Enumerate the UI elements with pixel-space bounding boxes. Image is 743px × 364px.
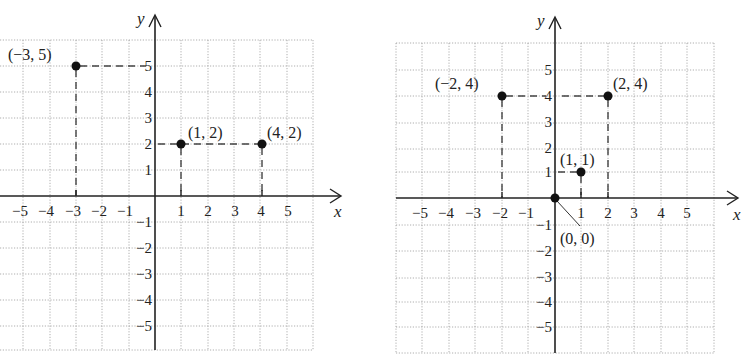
left-graph: x y −5 −4 −3 −2 −1 1 2 3 4 5 5	[0, 9, 342, 350]
right-point-label-3: (1, 1)	[560, 151, 595, 169]
svg-text:−5: −5	[412, 205, 428, 221]
left-grid	[0, 40, 313, 350]
svg-text:−3: −3	[536, 269, 552, 285]
svg-text:4: 4	[257, 203, 265, 219]
svg-text:3: 3	[545, 114, 553, 130]
left-y-axis-label: y	[135, 9, 145, 28]
svg-text:1: 1	[545, 164, 553, 180]
svg-text:5: 5	[145, 58, 153, 74]
svg-text:−3: −3	[65, 203, 81, 219]
svg-text:1: 1	[145, 162, 153, 178]
svg-text:4: 4	[657, 205, 665, 221]
coordinate-plane-figure: x y −5 −4 −3 −2 −1 1 2 3 4 5 5	[0, 0, 743, 364]
svg-text:5: 5	[284, 203, 292, 219]
svg-text:−2: −2	[492, 205, 508, 221]
svg-text:4: 4	[145, 84, 153, 100]
right-y-axis-label: y	[535, 11, 545, 30]
right-point-label-2: (2, 4)	[613, 75, 648, 93]
left-point-neg3-5	[72, 62, 81, 71]
svg-text:4: 4	[545, 88, 553, 104]
svg-text:3: 3	[145, 110, 153, 126]
svg-text:−1: −1	[518, 205, 534, 221]
svg-text:3: 3	[630, 205, 638, 221]
left-x-axis-label: x	[333, 202, 342, 221]
left-point-4-2	[258, 140, 267, 149]
svg-text:2: 2	[604, 205, 612, 221]
right-point-label-1: (−2, 4)	[435, 75, 479, 93]
svg-text:−2: −2	[536, 243, 552, 259]
left-point-label-1: (−3, 5)	[8, 46, 52, 64]
svg-text:−4: −4	[438, 205, 454, 221]
right-graph: x y −5 −4 −3 −2 −1 1 2 3 4 5 5 4	[396, 11, 741, 353]
svg-text:5: 5	[545, 62, 553, 78]
left-point-label-3: (4, 2)	[267, 124, 302, 142]
svg-text:−5: −5	[136, 318, 152, 334]
svg-text:1: 1	[577, 205, 585, 221]
svg-text:−4: −4	[38, 203, 54, 219]
right-point-1-1	[577, 168, 586, 177]
svg-text:2: 2	[545, 140, 553, 156]
right-point-0-0	[551, 194, 560, 203]
svg-text:−3: −3	[136, 266, 152, 282]
svg-text:−4: −4	[536, 294, 552, 310]
right-point-2-4	[604, 92, 613, 101]
svg-text:−2: −2	[136, 240, 152, 256]
right-x-axis-label: x	[732, 205, 741, 224]
left-point-1-2	[177, 140, 186, 149]
svg-text:1: 1	[177, 203, 185, 219]
svg-text:5: 5	[683, 205, 691, 221]
svg-text:2: 2	[204, 203, 212, 219]
svg-text:−3: −3	[465, 205, 481, 221]
svg-text:−5: −5	[12, 203, 28, 219]
svg-text:−2: −2	[91, 203, 107, 219]
right-point-neg2-4	[498, 92, 507, 101]
svg-text:−1: −1	[117, 203, 133, 219]
svg-text:2: 2	[145, 136, 153, 152]
svg-text:3: 3	[231, 203, 239, 219]
svg-text:−1: −1	[136, 214, 152, 230]
left-point-label-2: (1, 2)	[188, 124, 223, 142]
right-point-label-4: (0, 0)	[560, 230, 595, 248]
svg-text:−4: −4	[136, 292, 152, 308]
svg-text:−5: −5	[536, 319, 552, 335]
svg-text:−1: −1	[536, 217, 552, 233]
